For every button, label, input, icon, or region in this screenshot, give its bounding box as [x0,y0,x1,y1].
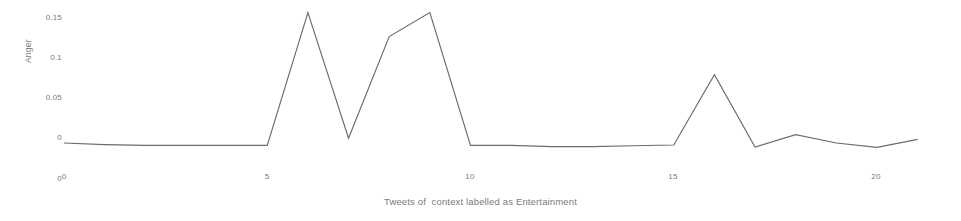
y-tick-label-0.1: 0.1 [30,53,62,62]
chart-figure: 0.15 0.1 0.05 0 0 0 5 10 15 20 Anger Twe… [0,0,961,221]
y-tick-label-0.05: 0.05 [30,93,62,102]
y-axis-title: Anger [23,39,33,63]
x-tick-label-20: 20 [862,172,890,181]
data-series-line [64,13,918,148]
x-axis-title: Tweets of context labelled as Entertainm… [0,196,961,207]
x-tick-label-5: 5 [253,172,281,181]
y-tick-label-0: 0 [30,133,62,142]
x-tick-label-10: 10 [456,172,484,181]
line-chart-plot [0,0,961,221]
y-tick-label-0.15: 0.15 [30,13,62,22]
x-tick-label-0: 0 [50,172,78,181]
x-tick-label-15: 15 [659,172,687,181]
